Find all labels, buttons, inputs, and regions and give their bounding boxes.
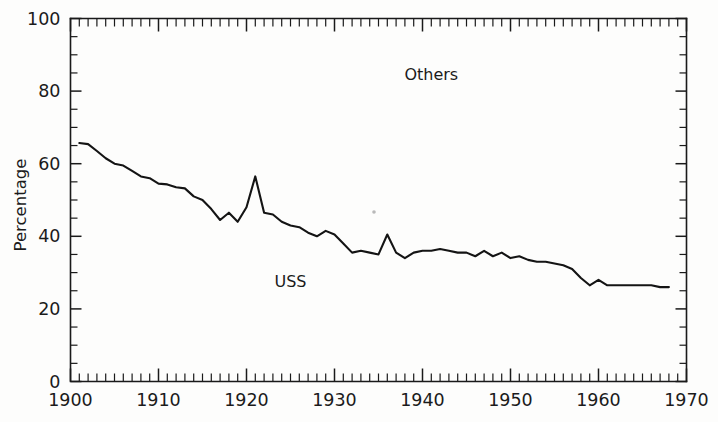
x-tick-label: 1900 [48, 390, 93, 410]
x-tick-label: 1920 [224, 390, 269, 410]
x-tick-label: 1940 [400, 390, 445, 410]
y-tick-label: 60 [38, 154, 60, 174]
x-tick-label: 1960 [576, 390, 621, 410]
top-axis-ticks [71, 19, 687, 32]
scan-speck [372, 210, 376, 214]
y-tick-label: 100 [27, 9, 60, 29]
y-axis-tick-labels: 020406080100 [27, 9, 60, 392]
x-axis-tick-labels: 19001910192019301940195019601970 [48, 390, 709, 410]
y-tick-label: 80 [38, 81, 60, 101]
figure-container: 020406080100 190019101920193019401950196… [0, 0, 718, 422]
x-tick-label: 1950 [488, 390, 533, 410]
x-tick-label: 1930 [312, 390, 357, 410]
y-axis-title: Percentage [11, 159, 30, 252]
line-chart: 020406080100 190019101920193019401950196… [0, 0, 718, 422]
y-tick-label: 0 [49, 372, 60, 392]
y-axis-minor-ticks [71, 37, 78, 364]
x-tick-label: 1910 [136, 390, 181, 410]
x-axis-minor-ticks [79, 374, 677, 382]
series-annotation-uss: USS [274, 272, 306, 291]
right-axis-ticks [676, 19, 687, 382]
axis-spines [71, 19, 687, 382]
y-tick-label: 40 [38, 226, 60, 246]
x-tick-label: 1970 [664, 390, 709, 410]
annotation-layer: OthersUSS [274, 65, 458, 291]
series-annotation-others: Others [404, 65, 458, 84]
y-tick-label: 20 [38, 299, 60, 319]
series-line-uss [79, 143, 669, 287]
